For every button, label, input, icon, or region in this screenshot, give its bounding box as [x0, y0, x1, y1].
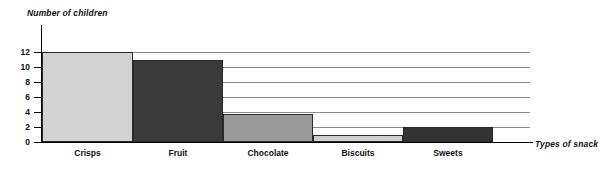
x-tick-label-sweets: Sweets — [403, 148, 493, 158]
y-tick-label-12: 12 — [0, 48, 30, 57]
y-axis-title: Number of children — [27, 8, 108, 18]
y-tick-label-0: 0 — [0, 138, 30, 147]
bar-sweets — [403, 127, 493, 142]
tick-mark-12 — [34, 52, 41, 53]
x-tick-label-biscuits: Biscuits — [313, 148, 403, 158]
tick-mark-4 — [34, 112, 41, 113]
y-tick-label-4: 4 — [0, 108, 30, 117]
tick-mark-0 — [34, 142, 41, 143]
y-tick-label-6: 6 — [0, 93, 30, 102]
bar-chocolate — [223, 114, 313, 142]
bar-biscuits — [313, 135, 403, 143]
tick-mark-6 — [34, 97, 41, 98]
x-axis-line — [41, 142, 533, 143]
bar-fruit — [133, 60, 223, 143]
bar-crisps — [42, 52, 133, 142]
y-tick-label-2: 2 — [0, 123, 30, 132]
tick-mark-10 — [34, 67, 41, 68]
y-tick-label-8: 8 — [0, 78, 30, 87]
x-tick-label-fruit: Fruit — [133, 148, 223, 158]
tick-mark-8 — [34, 82, 41, 83]
x-tick-label-chocolate: Chocolate — [223, 148, 313, 158]
bar-chart: Number of children Types of snack 12 10 … — [0, 0, 615, 171]
x-axis-title: Types of snack — [535, 139, 598, 149]
tick-mark-2 — [34, 127, 41, 128]
y-axis-line — [41, 25, 42, 143]
y-tick-label-10: 10 — [0, 63, 30, 72]
x-tick-label-crisps: Crisps — [42, 148, 133, 158]
